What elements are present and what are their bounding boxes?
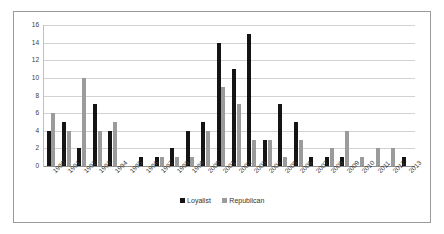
- bar-group: [121, 25, 136, 166]
- bar-group: [44, 25, 59, 166]
- bar-group: [276, 25, 291, 166]
- bar-republican-2003: [252, 140, 256, 166]
- bar-group: [369, 25, 384, 166]
- y-axis-tick-label: 8: [35, 92, 39, 99]
- bar-group: [75, 25, 90, 166]
- bar-group: [183, 25, 198, 166]
- legend-swatch-icon: [180, 198, 185, 203]
- bar-republican-1993: [98, 131, 102, 166]
- bars-layer: [44, 25, 415, 166]
- y-axis-tick-label: 2: [35, 145, 39, 152]
- y-axis-tick-label: 6: [35, 110, 39, 117]
- bar-republican-2011: [376, 148, 380, 166]
- bar-republican-1990: [51, 113, 55, 166]
- bar-loyalist-1990: [47, 131, 51, 166]
- bar-group: [168, 25, 183, 166]
- bar-group: [214, 25, 229, 166]
- legend-item-loyalist[interactable]: Loyalist: [180, 197, 211, 204]
- bar-group: [322, 25, 337, 166]
- bar-group: [90, 25, 105, 166]
- y-axis-tick-label: 10: [32, 75, 39, 82]
- bar-group: [400, 25, 415, 166]
- y-axis: 0246810121416: [14, 25, 42, 166]
- bar-group: [307, 25, 322, 166]
- y-axis-tick-label: 16: [32, 22, 39, 29]
- bar-group: [338, 25, 353, 166]
- bar-republican-2004: [268, 140, 272, 166]
- bar-group: [137, 25, 152, 166]
- y-axis-tick-label: 14: [32, 39, 39, 46]
- bar-republican-1991: [67, 131, 71, 166]
- bar-republican-2009: [345, 131, 349, 166]
- bar-republican-1994: [113, 122, 117, 166]
- bar-republican-2001: [221, 87, 225, 166]
- bar-loyalist-2002: [232, 69, 236, 166]
- bar-republican-2000: [206, 131, 210, 166]
- bar-republican-1992: [82, 78, 86, 166]
- bar-loyalist-2005: [278, 104, 282, 166]
- bar-group: [199, 25, 214, 166]
- bar-republican-2006: [299, 140, 303, 166]
- legend-label: Republican: [229, 197, 264, 204]
- bar-group: [384, 25, 399, 166]
- y-axis-tick-label: 12: [32, 57, 39, 64]
- bar-republican-2012: [391, 148, 395, 166]
- bar-loyalist-1993: [93, 104, 97, 166]
- chart-legend: LoyalistRepublican: [14, 197, 430, 204]
- bar-group: [353, 25, 368, 166]
- legend-item-republican[interactable]: Republican: [222, 197, 265, 204]
- legend-label: Loyalist: [187, 197, 211, 204]
- bar-group: [230, 25, 245, 166]
- bar-group: [260, 25, 275, 166]
- y-axis-tick-label: 4: [35, 128, 39, 135]
- bar-group: [106, 25, 121, 166]
- bar-group: [152, 25, 167, 166]
- bar-republican-2002: [237, 104, 241, 166]
- bar-loyalist-2001: [217, 43, 221, 166]
- bar-group: [291, 25, 306, 166]
- bar-republican-2008: [330, 148, 334, 166]
- bar-group: [59, 25, 74, 166]
- chart-container: 0246810121416 19901991199219931994199519…: [13, 11, 431, 223]
- bar-loyalist-2003: [247, 34, 251, 166]
- y-axis-tick-label: 0: [35, 163, 39, 170]
- bar-group: [245, 25, 260, 166]
- legend-swatch-icon: [222, 198, 227, 203]
